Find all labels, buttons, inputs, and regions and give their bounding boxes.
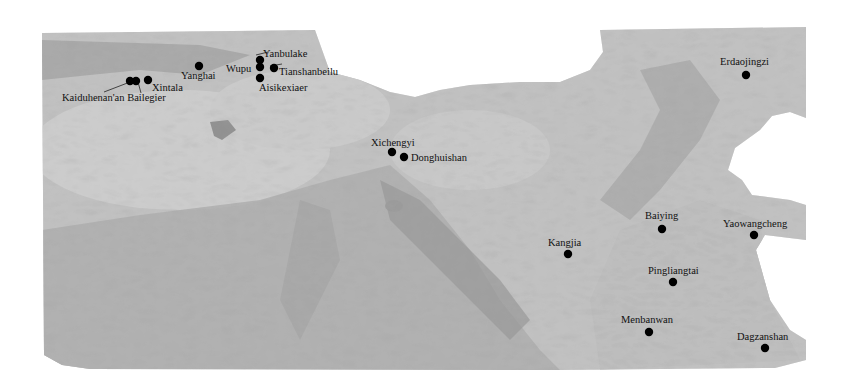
site-marker-icon xyxy=(256,74,264,82)
site-label: Kaiduhenan'an Bailegier xyxy=(62,92,166,103)
site-marker-icon xyxy=(144,76,152,84)
map-canvas: Kaiduhenan'an BailegierXintalaYanghaiWup… xyxy=(0,0,842,388)
site-marker-icon xyxy=(761,344,769,352)
site-marker-icon xyxy=(645,328,653,336)
site-marker-icon xyxy=(400,153,408,161)
site-label: Menbanwan xyxy=(621,314,674,325)
site-marker-icon xyxy=(658,225,666,233)
site-marker-icon xyxy=(669,278,677,286)
site-label: Pingliangtai xyxy=(648,265,699,276)
site-label: Dagzanshan xyxy=(737,331,789,342)
site-label: Wupu xyxy=(226,63,252,74)
site-label: Yanghai xyxy=(181,70,216,81)
site-marker-icon xyxy=(564,250,572,258)
site-label: Aisikexiaer xyxy=(259,82,308,93)
site-label: Baiying xyxy=(645,210,679,221)
site-label: Kangjia xyxy=(548,237,582,248)
site-label: Yaowangcheng xyxy=(723,218,788,229)
site-marker-icon xyxy=(388,148,396,156)
site-marker-icon xyxy=(742,71,750,79)
site-marker-icon xyxy=(270,64,278,72)
site-marker-icon xyxy=(195,62,203,70)
site-marker-icon xyxy=(132,77,140,85)
site-label: Tianshanbeilu xyxy=(279,66,339,77)
site-label: Xichengyi xyxy=(371,137,415,148)
site-label: Erdaojingzi xyxy=(720,56,769,67)
site-label: Donghuishan xyxy=(411,152,468,163)
site-marker-icon xyxy=(750,231,758,239)
site-label: Yanbulake xyxy=(263,48,308,59)
site-label: Xintala xyxy=(152,82,183,93)
